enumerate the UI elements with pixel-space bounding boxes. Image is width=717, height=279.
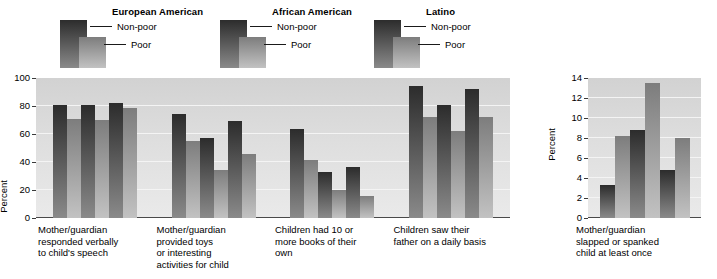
bar (479, 117, 493, 218)
y-tick-mark (32, 134, 36, 135)
y-axis-title: Percent (546, 128, 557, 161)
legend-entry-label: Poor (445, 39, 465, 50)
y-tick-mark (584, 158, 588, 159)
bar (290, 129, 304, 218)
bar (451, 131, 465, 218)
bar (53, 105, 67, 218)
legend-entry-poor: Poor (418, 39, 465, 50)
y-tick-label: 0 (568, 212, 582, 223)
bar (318, 172, 332, 218)
y-tick-mark (584, 218, 588, 219)
leader-line-icon (250, 26, 272, 27)
plot-area (588, 78, 701, 218)
y-tick-mark (32, 78, 36, 79)
y-tick-mark (32, 190, 36, 191)
legend-title: European American (112, 6, 203, 17)
leader-line-icon (104, 44, 126, 45)
bar (600, 185, 615, 218)
y-tick-label: 40 (8, 156, 30, 167)
bar (332, 190, 346, 218)
legend-swatch-poor (239, 37, 266, 68)
y-tick-label: 100 (8, 72, 30, 83)
chart-legend: European American Non-poor Poor African … (0, 6, 717, 68)
leader-line-icon (90, 26, 112, 27)
bar (360, 196, 374, 218)
y-tick-label: 0 (8, 212, 30, 223)
leader-line-icon (264, 44, 286, 45)
bar (109, 103, 123, 218)
x-category-label: Children saw their father on a daily bas… (394, 224, 553, 247)
legend-entry-poor: Poor (264, 39, 311, 50)
y-tick-mark (584, 178, 588, 179)
legend-entry-non-poor: Non-poor (90, 21, 157, 32)
y-tick-mark (584, 118, 588, 119)
legend-entry-label: Poor (291, 39, 311, 50)
y-tick-label: 14 (568, 72, 582, 83)
bar (465, 89, 479, 218)
y-tick-mark (32, 218, 36, 219)
y-tick-mark (32, 162, 36, 163)
legend-title: African American (272, 6, 352, 17)
y-tick-mark (584, 138, 588, 139)
legend-title: Latino (426, 6, 455, 17)
y-tick-mark (584, 98, 588, 99)
bar (67, 119, 81, 218)
chart-percent-by-outcome: Percent 020406080100 Mother/guardian res… (0, 72, 510, 279)
y-tick-mark (584, 78, 588, 79)
legend-entry-label: Non-poor (117, 21, 157, 32)
y-tick-label: 12 (568, 92, 582, 103)
bar (214, 170, 228, 218)
legend-entry-non-poor: Non-poor (250, 21, 317, 32)
chart-percent-spanked: Percent 02468101214 Mother/guardian slap… (540, 72, 717, 279)
bar (409, 86, 423, 218)
leader-line-icon (418, 44, 440, 45)
y-tick-label: 60 (8, 128, 30, 139)
legend-entry-label: Non-poor (431, 21, 471, 32)
bar (423, 117, 437, 218)
legend-entry-non-poor: Non-poor (404, 21, 471, 32)
bar (346, 167, 360, 218)
legend-swatch-poor (393, 37, 420, 68)
y-tick-mark (32, 106, 36, 107)
bar (645, 83, 660, 218)
bar (615, 136, 630, 218)
bar (186, 141, 200, 218)
bar (81, 105, 95, 218)
legend-swatch-poor (79, 37, 106, 68)
y-tick-label: 2 (568, 192, 582, 203)
y-tick-mark (584, 198, 588, 199)
bar (95, 120, 109, 218)
y-tick-label: 20 (8, 184, 30, 195)
plot-area (36, 78, 510, 218)
y-tick-label: 4 (568, 172, 582, 183)
bar (228, 121, 242, 218)
y-tick-label: 8 (568, 132, 582, 143)
bar (172, 114, 186, 218)
legend-entry-poor: Poor (104, 39, 151, 50)
y-tick-label: 10 (568, 112, 582, 123)
bar (675, 138, 690, 218)
bar (304, 160, 318, 218)
bar (660, 170, 675, 218)
bar (437, 105, 451, 218)
leader-line-icon (404, 26, 426, 27)
x-category-label: Mother/guardian slapped or spanked child… (576, 224, 717, 259)
bar (200, 138, 214, 219)
y-tick-label: 80 (8, 100, 30, 111)
bar (630, 130, 645, 218)
legend-entry-label: Poor (131, 39, 151, 50)
legend-entry-label: Non-poor (277, 21, 317, 32)
y-tick-label: 6 (568, 152, 582, 163)
bar (123, 108, 137, 218)
bar (242, 154, 256, 218)
